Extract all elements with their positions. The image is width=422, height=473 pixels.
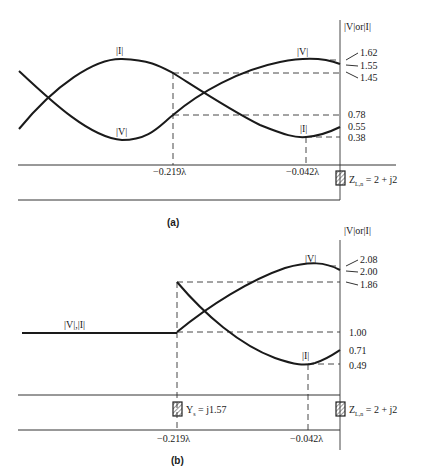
panel-a-position-0.219: −0.219λ <box>153 167 186 177</box>
panel-b-tick-0.49: 0.49 <box>349 361 367 371</box>
standing-wave-diagram <box>0 0 422 473</box>
panel-a-tick-1.45: 1.45 <box>360 73 378 83</box>
panel-b-axis-title: |V|or|I| <box>344 226 371 236</box>
panel-b-load-label: ZL,n = 2 + j2 <box>349 405 397 419</box>
panel-a-tick-1.62: 1.62 <box>360 48 378 58</box>
panel-b-current-curve <box>177 282 340 365</box>
panel-b-stub-label: Ys = j1.57 <box>186 405 227 419</box>
panel-a-tick-1.55: 1.55 <box>360 61 378 71</box>
panel-b-load-box <box>336 402 345 416</box>
panel-a-tick-0.55: 0.55 <box>348 122 366 132</box>
panel-a-caption: (a) <box>167 217 179 228</box>
panel-a-voltage-curve <box>19 59 340 140</box>
panel-a-load-box <box>336 171 345 185</box>
panel-a-axis-title: |V|or|I| <box>344 22 371 32</box>
panel-a-current-curve <box>19 59 340 137</box>
panel-a-label-I-right: |I| <box>300 124 307 134</box>
panel-a-plot <box>18 20 396 200</box>
panel-a-load-label: ZL,n = 2 + j2 <box>349 175 397 189</box>
panel-b-label-flat: |V|,|I| <box>64 320 85 330</box>
panel-b-tick-2.08: 2.08 <box>360 255 378 265</box>
panel-a-position-0.042: −0.042λ <box>286 167 319 177</box>
panel-a-label-V-min: |V| <box>116 127 127 137</box>
panel-a-label-V-right: |V| <box>297 47 308 57</box>
panel-a-label-I-peak: |I| <box>116 46 123 56</box>
panel-b-tick-0.71: 0.71 <box>349 346 367 356</box>
panel-b-tick-1.86: 1.86 <box>360 280 378 290</box>
panel-a-tick-0.38: 0.38 <box>348 133 366 143</box>
panel-b-label-V-right: |V| <box>305 254 316 264</box>
panel-a-tick-0.78: 0.78 <box>348 110 366 120</box>
panel-b-caption: (b) <box>171 455 184 466</box>
panel-b-tick-2.00: 2.00 <box>360 267 378 277</box>
panel-b-position-0.219: −0.219λ <box>157 434 190 444</box>
panel-b-stub-box <box>173 402 182 416</box>
panel-b-label-I-right: |I| <box>302 351 309 361</box>
panel-b-voltage-curve <box>177 263 340 332</box>
panel-b-position-0.042: −0.042λ <box>290 434 323 444</box>
panel-b-tick-1.00: 1.00 <box>349 328 367 338</box>
